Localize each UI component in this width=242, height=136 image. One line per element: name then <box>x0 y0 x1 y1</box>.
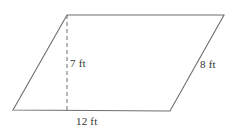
height-label: 7 ft <box>70 57 86 69</box>
parallelogram-figure: 7 ft 12 ft 8 ft <box>0 0 242 136</box>
base-label: 12 ft <box>76 115 97 127</box>
side-label: 8 ft <box>200 58 216 70</box>
parallelogram-outline <box>13 15 224 111</box>
